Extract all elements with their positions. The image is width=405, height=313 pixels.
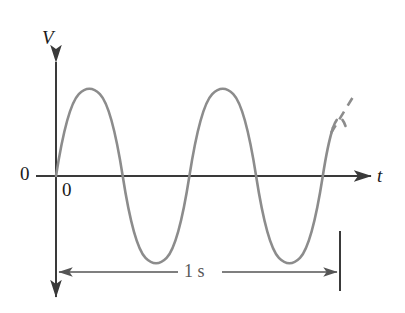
time-zero-label: 0 [62,180,72,199]
duration-label: 1 s [180,262,209,280]
curve-continuation-tail [331,97,353,133]
time-axis-label: t [377,166,382,185]
voltage-zero-label: 0 [20,164,30,183]
voltage-axis-label: V [42,28,54,47]
sine-wave-figure: V t 0 0 1 s [0,0,405,313]
